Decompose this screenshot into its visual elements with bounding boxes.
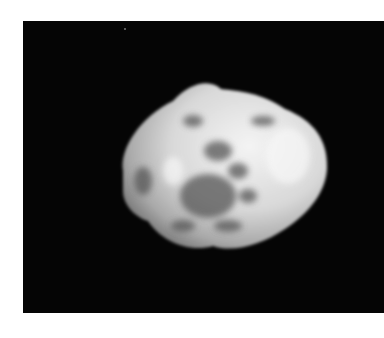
space-photograph [23, 21, 384, 313]
asteroid-illustration [23, 21, 384, 313]
